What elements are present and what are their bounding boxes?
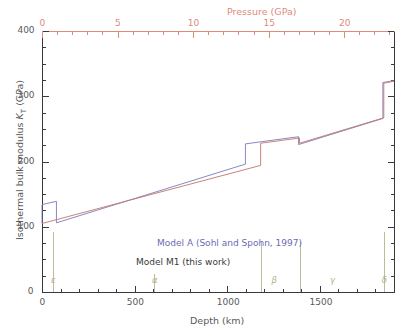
axis-tick-label: 15: [263, 18, 274, 28]
axis-tick-label: 100: [17, 221, 34, 231]
y-title-subscript: T: [20, 109, 28, 113]
axis-tick-label: 0: [39, 18, 45, 28]
axis-tick-label: 500: [127, 297, 144, 307]
axis-tick-label: 0: [28, 286, 34, 296]
y-title-symbol: K: [14, 113, 25, 119]
legend-model-a: Model A (Sohl and Spohn, 1997): [157, 238, 302, 248]
axis-tick-label: 20: [339, 18, 350, 28]
axis-tick-label: 1000: [217, 297, 240, 307]
figure-canvas: Pressure (GPa) Isothermal bulk modulus K…: [0, 0, 408, 336]
axis-tick-label: 300: [17, 90, 34, 100]
pressure-axis-title: Pressure (GPa): [227, 6, 296, 17]
depth-axis-title: Depth (km): [190, 315, 244, 326]
series-model-m1: [42, 81, 394, 223]
legend-model-m1: Model M1 (this work): [136, 257, 230, 267]
axis-tick-label: 5: [115, 18, 121, 28]
data-curves: [42, 31, 395, 293]
series-model-a: [42, 81, 394, 224]
axis-tick-label: 1500: [309, 297, 332, 307]
axis-tick-label: 0: [39, 297, 45, 307]
axis-tick-label: 10: [188, 18, 199, 28]
axis-tick-label: 400: [17, 25, 34, 35]
axis-tick-label: 200: [17, 156, 34, 166]
plot-area: 050010001500051015200100200300400 εαβγδ …: [42, 31, 395, 293]
